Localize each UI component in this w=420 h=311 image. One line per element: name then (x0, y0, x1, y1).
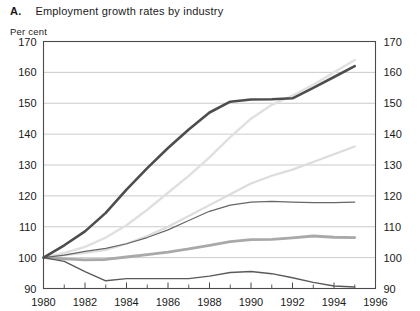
svg-text:1992: 1992 (280, 296, 304, 308)
svg-text:170: 170 (384, 36, 402, 48)
svg-text:100: 100 (384, 252, 402, 264)
svg-text:1986: 1986 (156, 296, 180, 308)
svg-text:150: 150 (384, 97, 402, 109)
svg-text:120: 120 (18, 190, 36, 202)
svg-text:120: 120 (384, 190, 402, 202)
svg-text:110: 110 (19, 221, 37, 233)
svg-text:1982: 1982 (73, 296, 97, 308)
line-chart: 90100110120130140150160170 9010011012013… (0, 0, 420, 311)
svg-text:1990: 1990 (239, 296, 263, 308)
svg-text:150: 150 (18, 97, 36, 109)
series-line-series-6-declining (44, 258, 355, 287)
svg-text:100: 100 (18, 252, 36, 264)
svg-text:1988: 1988 (197, 296, 221, 308)
svg-text:90: 90 (384, 283, 396, 295)
grid-lines (44, 72, 376, 257)
svg-text:170: 170 (18, 36, 36, 48)
svg-text:140: 140 (384, 128, 402, 140)
y-axis-tick-labels-right: 90100110120130140150160170 (384, 36, 402, 295)
series-line-series-1-dark (44, 66, 355, 257)
x-axis-tick-labels: 198019821984198619881990199219941996 (31, 296, 387, 308)
svg-text:160: 160 (384, 66, 402, 78)
figure-container: A.Employment growth rates by industry Pe… (0, 0, 420, 311)
svg-text:1984: 1984 (114, 296, 138, 308)
svg-text:130: 130 (18, 159, 36, 171)
svg-text:1996: 1996 (363, 296, 387, 308)
svg-text:160: 160 (18, 66, 36, 78)
series-line-series-5-medium-grey (44, 236, 355, 260)
data-series-group (44, 60, 355, 287)
svg-text:130: 130 (384, 159, 402, 171)
svg-text:90: 90 (24, 283, 36, 295)
y-axis-tick-labels-left: 90100110120130140150160170 (18, 36, 36, 295)
svg-text:140: 140 (18, 128, 36, 140)
x-axis-ticks (64, 283, 355, 289)
svg-text:1980: 1980 (31, 296, 55, 308)
svg-text:1994: 1994 (322, 296, 346, 308)
svg-text:110: 110 (384, 221, 402, 233)
